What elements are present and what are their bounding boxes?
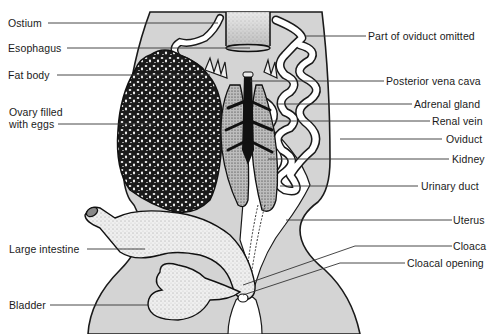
label-cloaca: Cloaca [453,240,486,252]
label-ostium: Ostium [8,17,42,29]
label-uterus: Uterus [453,214,485,226]
anatomy-diagram: Ostium Esophagus Fat body Ovary filled w… [0,0,497,334]
label-cloacal-opening: Cloacal opening [407,257,484,269]
label-esophagus: Esophagus [8,42,61,54]
label-posterior-vena-cava: Posterior vena cava [386,75,481,87]
label-kidney: Kidney [452,153,485,165]
label-part-of-oviduct-omitted: Part of oviduct omitted [368,30,475,42]
cloacal-opening-shape [238,294,248,302]
label-ovary-line1: Ovary filled [9,106,63,118]
label-renal-vein: Renal vein [432,115,483,127]
anatomy-illustration [0,0,497,334]
label-large-intestine: Large intestine [9,243,79,255]
label-ovary-line2: with eggs [9,118,54,130]
ovary-shape [118,50,223,213]
label-adrenal-gland: Adrenal gland [414,98,480,110]
label-bladder: Bladder [9,299,46,311]
label-oviduct: Oviduct [446,133,482,145]
label-urinary-duct: Urinary duct [421,180,479,192]
esophagus-shape [226,12,270,52]
label-fat-body: Fat body [8,69,50,81]
